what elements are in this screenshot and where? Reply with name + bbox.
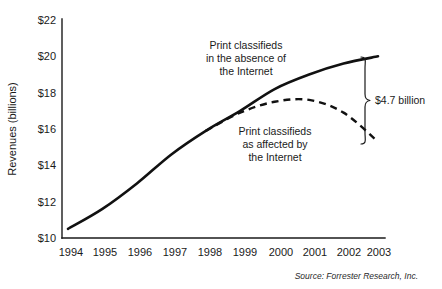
x-tick-1994: 1994: [59, 246, 83, 258]
x-tick-2003: 2003: [367, 246, 391, 258]
annotation-affected-by-internet: Print classifieds as affected by the Int…: [239, 125, 312, 163]
x-tick-1995: 1995: [93, 246, 117, 258]
x-tick-1997: 1997: [163, 246, 187, 258]
x-tick-2001: 2001: [303, 246, 327, 258]
x-tick-2000: 2000: [269, 246, 293, 258]
gap-bracket: $4.7 billion: [361, 57, 425, 144]
series-line-absence-of-internet: [68, 56, 378, 229]
y-tick-14: $14: [38, 159, 56, 171]
x-tick-2002: 2002: [337, 246, 361, 258]
y-axis-title: Revenues (billions): [6, 82, 18, 176]
x-tick-1996: 1996: [128, 246, 152, 258]
y-tick-18: $18: [38, 87, 56, 99]
source-attribution: Source: Forrester Research, Inc.: [295, 271, 418, 281]
curly-brace-icon: [361, 57, 370, 144]
annotation-absence-of-internet: Print classifieds in the absence of the …: [206, 39, 286, 77]
y-axis-tick-labels: $10 $12 $14 $16 $18 $20 $22: [38, 14, 56, 244]
y-tick-22: $22: [38, 14, 56, 26]
y-tick-10: $10: [38, 232, 56, 244]
annot-dashed-line-1: Print classifieds: [239, 125, 312, 137]
y-tick-12: $12: [38, 196, 56, 208]
x-tick-1998: 1998: [198, 246, 222, 258]
annot-solid-line-3: the Internet: [219, 65, 272, 77]
annot-dashed-line-2: as affected by: [242, 138, 308, 150]
x-tick-1999: 1999: [233, 246, 257, 258]
data-series-group: [68, 56, 378, 229]
x-axis-tick-labels: 1994 1995 1996 1997 1998 1999 2000 2001 …: [59, 246, 391, 258]
annot-solid-line-1: Print classifieds: [210, 39, 283, 51]
annot-solid-line-2: in the absence of: [206, 52, 286, 64]
chart-canvas: Revenues (billions) $10 $12 $14 $16 $18 …: [0, 0, 442, 289]
y-tick-16: $16: [38, 123, 56, 135]
annot-dashed-line-3: the Internet: [248, 151, 301, 163]
gap-value-label: $4.7 billion: [375, 94, 425, 106]
y-axis-title-text: Revenues (billions): [6, 82, 18, 176]
y-tick-20: $20: [38, 50, 56, 62]
classifieds-revenue-chart: Revenues (billions) $10 $12 $14 $16 $18 …: [0, 0, 442, 289]
